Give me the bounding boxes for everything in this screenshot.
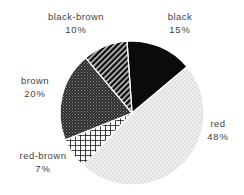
- pie-label-red-brown: red-brown 7%: [4, 150, 82, 176]
- pie-label-black-brown-value: 10%: [30, 24, 122, 37]
- pie-label-red-value: 48%: [198, 131, 238, 144]
- pie-label-black: black 15%: [150, 11, 210, 37]
- pie-label-black-name: black: [150, 11, 210, 24]
- pie-label-brown: brown 20%: [6, 75, 64, 101]
- pie-label-red-name: red: [198, 118, 238, 131]
- pie-label-red: red 48%: [198, 118, 238, 144]
- pie-label-brown-value: 20%: [6, 88, 64, 101]
- pie-chart: black 15% black-brown 10% brown 20% red-…: [0, 0, 244, 195]
- pie-label-black-brown: black-brown 10%: [30, 11, 122, 37]
- pie-label-brown-name: brown: [6, 75, 64, 88]
- pie-label-black-brown-name: black-brown: [30, 11, 122, 24]
- pie-label-red-brown-value: 7%: [4, 163, 82, 176]
- pie-label-red-brown-name: red-brown: [4, 150, 82, 163]
- pie-label-black-value: 15%: [150, 24, 210, 37]
